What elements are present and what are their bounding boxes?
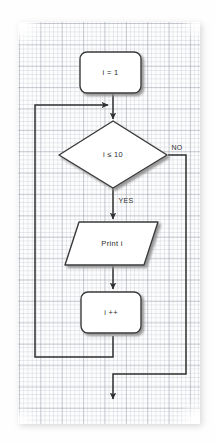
edge-label-no: NO	[171, 144, 182, 151]
node-increment-label: i ++	[104, 308, 118, 317]
flowchart-screenshot: i = 1 i ≤ 10 Print i i ++ YES NO	[0, 0, 215, 443]
node-condition-label: i ≤ 10	[103, 150, 123, 159]
flowchart-diagram: i = 1 i ≤ 10 Print i i ++ YES NO	[0, 0, 215, 443]
node-output-label: Print i	[101, 239, 122, 248]
edge-label-yes: YES	[119, 197, 134, 204]
edge-condition-no-to-exit	[113, 155, 186, 399]
node-init-label: i = 1	[103, 68, 119, 77]
